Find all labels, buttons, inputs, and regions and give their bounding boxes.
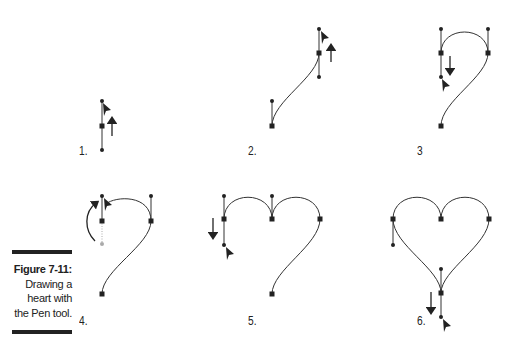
step-6-label: 6.	[417, 314, 426, 328]
step-4-drawing	[87, 194, 154, 297]
step-3-label: 3	[417, 144, 423, 158]
caption-line: heart with	[12, 291, 72, 306]
step-5-drawing	[213, 194, 323, 297]
cursor-icon	[104, 198, 112, 211]
curved-arrow-icon	[87, 203, 96, 241]
step-3-drawing	[439, 27, 491, 129]
cursor-icon	[443, 319, 451, 332]
caption-top-bar	[12, 250, 72, 254]
step-1-label: 1.	[79, 144, 88, 158]
caption-line: Drawing a	[12, 277, 72, 292]
caption-title: Figure 7-11:	[12, 262, 72, 277]
caption-line: the Pen tool.	[12, 306, 72, 321]
heart-diagram	[0, 0, 513, 352]
step-2-drawing	[270, 27, 332, 129]
step-6-drawing	[391, 197, 492, 332]
cursor-icon	[226, 247, 234, 260]
cursor-icon	[442, 79, 450, 92]
figure-caption: Figure 7-11: Drawing a heart with the Pe…	[12, 250, 72, 334]
handle-point	[100, 148, 104, 152]
caption-bottom-bar	[12, 330, 72, 334]
step-1-drawing	[100, 99, 113, 152]
step-5-label: 5.	[248, 314, 257, 328]
cursor-icon	[321, 31, 329, 44]
handle-point	[100, 99, 104, 103]
cursor-icon	[103, 103, 111, 116]
step-2-label: 2.	[248, 144, 257, 158]
anchor-point	[100, 124, 105, 129]
step-4-label: 4.	[79, 314, 88, 328]
